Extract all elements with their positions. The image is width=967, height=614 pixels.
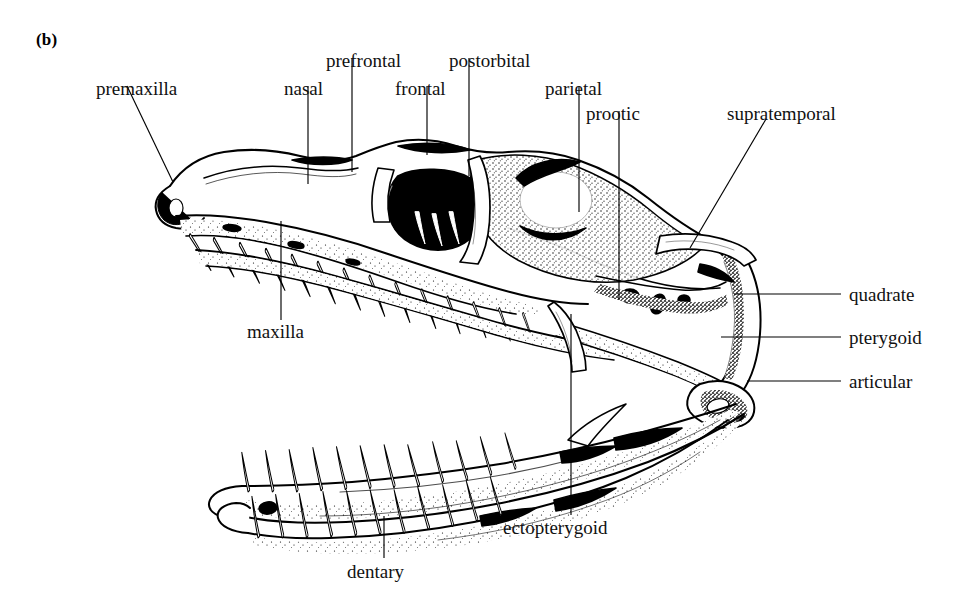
label-pterygoid: pterygoid [849, 328, 922, 347]
label-nasal: nasal [284, 79, 323, 98]
figure-container: (b) premaxilla nasal prefrontal frontal … [0, 0, 967, 614]
label-quadrate: quadrate [849, 285, 914, 304]
label-postorbital: postorbital [449, 51, 530, 70]
label-dentary: dentary [347, 562, 404, 581]
leader-line-supratemporal [690, 119, 766, 248]
label-articular: articular [849, 372, 912, 391]
label-frontal: frontal [395, 79, 446, 98]
label-maxilla: maxilla [247, 322, 304, 341]
label-supratemporal: supratemporal [727, 104, 836, 123]
panel-label: (b) [36, 30, 57, 50]
label-ectopterygoid: ectopterygoid [503, 518, 607, 537]
label-prootic: prootic [586, 104, 640, 123]
leader-line-premaxilla [127, 86, 173, 182]
label-premaxilla: premaxilla [96, 79, 177, 98]
label-parietal: parietal [545, 79, 602, 98]
label-prefrontal: prefrontal [326, 51, 401, 70]
